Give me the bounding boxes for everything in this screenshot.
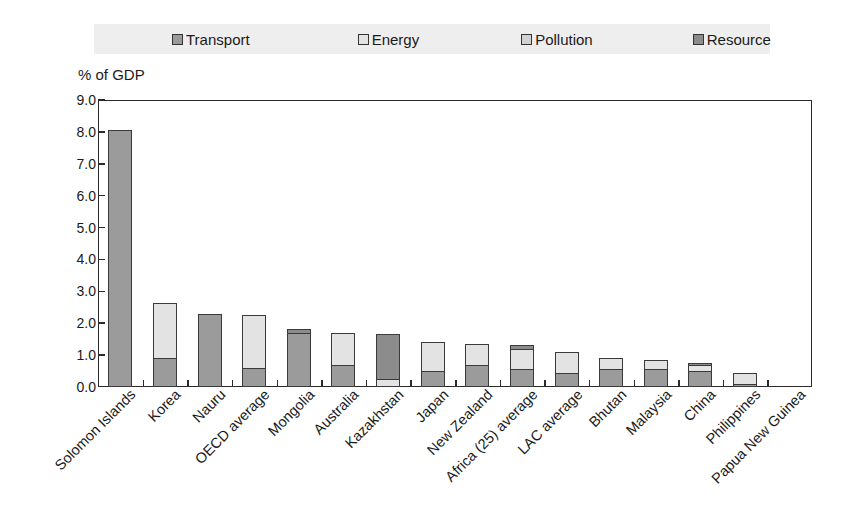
legend-item-label: Energy: [372, 31, 420, 48]
bar-group[interactable]: [153, 303, 177, 387]
bar-segment-energy[interactable]: [376, 379, 400, 387]
bar-group[interactable]: [421, 342, 445, 387]
bar-group[interactable]: [510, 345, 534, 387]
x-axis-tick-mark: [500, 380, 502, 387]
y-axis-tick-label: 4.0: [77, 252, 96, 266]
y-axis-tick-label: 1.0: [77, 348, 96, 362]
legend-swatch-icon: [358, 34, 369, 45]
x-axis-tick-mark: [544, 380, 546, 387]
y-axis-tick-label: 0.0: [77, 380, 96, 394]
bar-segment-energy[interactable]: [644, 360, 668, 370]
legend-item-label: Pollution: [535, 31, 593, 48]
x-axis-tick-label: Mongolia: [265, 387, 317, 439]
bar-segment-energy[interactable]: [733, 373, 757, 384]
bar-segment-transport[interactable]: [421, 371, 445, 387]
bar-group[interactable]: [198, 314, 222, 387]
y-axis-tick-mark: [98, 131, 105, 133]
x-axis-tick-mark: [366, 380, 368, 387]
bar-segment-energy[interactable]: [599, 358, 623, 369]
bar-segment-transport[interactable]: [287, 333, 311, 387]
chart-legend: TransportEnergyPollutionResource: [94, 24, 770, 54]
x-axis-tick-label: Solomon Islands: [53, 387, 139, 473]
x-axis-tick-label: Bhutan: [587, 387, 630, 430]
bar-segment-energy[interactable]: [421, 342, 445, 371]
y-axis-tick-mark: [98, 354, 105, 356]
legend-swatch-icon: [693, 34, 704, 45]
bar-segment-resource[interactable]: [376, 334, 400, 379]
x-axis-tick-mark: [455, 380, 457, 387]
bar-segment-energy[interactable]: [153, 303, 177, 359]
x-axis-tick-mark: [767, 380, 769, 387]
bar-segment-transport[interactable]: [198, 314, 222, 387]
x-axis-tick-mark: [723, 380, 725, 387]
x-axis-tick-label: Korea: [146, 387, 184, 425]
bar-group[interactable]: [644, 360, 668, 387]
bar-group[interactable]: [376, 334, 400, 387]
legend-swatch-icon: [521, 34, 532, 45]
y-axis-tick-mark: [98, 99, 105, 101]
y-axis-tick-label: 2.0: [77, 316, 96, 330]
bar-segment-energy[interactable]: [555, 352, 579, 373]
bar-series-container: [98, 100, 812, 387]
legend-item-energy[interactable]: Energy: [358, 31, 420, 48]
chart-page: TransportEnergyPollutionResource % of GD…: [0, 0, 863, 526]
bar-segment-transport[interactable]: [644, 369, 668, 387]
x-axis-tick-label: China: [682, 387, 719, 424]
bar-segment-transport[interactable]: [465, 365, 489, 387]
y-axis-tick-mark: [98, 259, 105, 261]
x-axis-tick-mark: [277, 380, 279, 387]
legend-swatch-icon: [172, 34, 183, 45]
x-axis-tick-mark: [678, 380, 680, 387]
x-axis-tick-label: Malaysia: [623, 387, 674, 438]
bar-segment-energy[interactable]: [465, 344, 489, 365]
y-axis-tick-mark: [98, 322, 105, 324]
x-axis-labels: Solomon IslandsKoreaNauruOECD averageMon…: [98, 387, 812, 526]
bar-segment-transport[interactable]: [153, 358, 177, 387]
x-axis-tick-label: Nauru: [190, 387, 228, 425]
y-axis-tick-label: 8.0: [77, 125, 96, 139]
plot-area: [98, 100, 812, 387]
x-axis-tick-mark: [634, 380, 636, 387]
x-axis-tick-mark: [321, 380, 323, 387]
bar-segment-transport[interactable]: [331, 365, 355, 387]
x-axis-tick-mark: [410, 380, 412, 387]
x-axis-tick-label: Japan: [413, 387, 451, 425]
bar-segment-transport[interactable]: [108, 130, 132, 387]
bar-group[interactable]: [599, 358, 623, 387]
legend-item-pollution[interactable]: Pollution: [521, 31, 593, 48]
y-axis-tick-label: 9.0: [77, 93, 96, 107]
bar-group[interactable]: [555, 352, 579, 387]
x-axis-tick-mark: [143, 380, 145, 387]
bar-group[interactable]: [287, 329, 311, 387]
bar-segment-energy[interactable]: [331, 333, 355, 365]
bar-segment-transport[interactable]: [510, 369, 534, 387]
bar-group[interactable]: [465, 344, 489, 387]
y-axis-labels: 0.01.02.03.04.05.06.07.08.09.0: [66, 93, 96, 394]
y-axis-title: % of GDP: [78, 66, 145, 83]
bar-segment-energy[interactable]: [510, 349, 534, 370]
y-axis-tick-label: 5.0: [77, 221, 96, 235]
bar-group[interactable]: [242, 315, 266, 387]
legend-item-label: Transport: [186, 31, 250, 48]
y-axis-tick-mark: [98, 163, 105, 165]
bar-segment-transport[interactable]: [242, 368, 266, 387]
x-axis-tick-mark: [589, 380, 591, 387]
x-axis-tick-mark: [232, 380, 234, 387]
bar-group[interactable]: [688, 363, 712, 387]
legend-item-label: Resource: [707, 31, 771, 48]
bar-group[interactable]: [331, 333, 355, 387]
bar-segment-transport[interactable]: [599, 369, 623, 387]
legend-item-resource[interactable]: Resource: [693, 31, 771, 48]
x-axis-tick-mark: [187, 380, 189, 387]
y-axis-tick-label: 7.0: [77, 157, 96, 171]
bar-segment-transport[interactable]: [555, 373, 579, 387]
y-axis-tick-mark: [98, 195, 105, 197]
bar-segment-transport[interactable]: [688, 371, 712, 387]
y-axis-tick-label: 3.0: [77, 284, 96, 298]
y-axis-tick-mark: [98, 291, 105, 293]
legend-item-transport[interactable]: Transport: [172, 31, 250, 48]
bar-group[interactable]: [733, 373, 757, 387]
bar-segment-energy[interactable]: [242, 315, 266, 368]
bar-group[interactable]: [108, 130, 132, 387]
y-axis-tick-label: 6.0: [77, 189, 96, 203]
